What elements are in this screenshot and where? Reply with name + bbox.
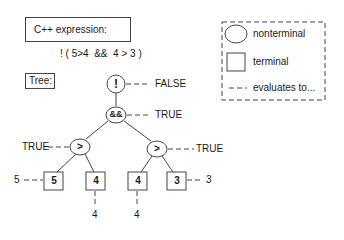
terminal-node: 3 [167,176,187,186]
legend-evaluates-to: evaluates to... [253,83,315,93]
terminal-value: 4 [92,210,98,220]
not-node-value: FALSE [155,79,186,89]
terminal-node: 4 [86,176,106,186]
gt-right-node: > [147,144,167,154]
gt-left-node: > [70,142,90,152]
legend-terminal: terminal [253,57,289,67]
dash-icon [229,86,247,90]
legend-nonterminal: nonterminal [253,29,305,39]
and-node-value: TRUE [155,110,182,120]
terminal-value: 3 [206,175,212,185]
terminal-node: 4 [128,176,148,186]
terminal-node: 5 [44,176,64,186]
terminal-value: 4 [134,210,140,220]
square-icon [227,53,245,71]
gt-right-value: TRUE [196,144,223,154]
terminal-value: 5 [14,175,20,185]
circle-icon [225,25,247,43]
not-node: ! [106,78,126,90]
and-node: && [106,110,126,119]
gt-left-value: TRUE [22,142,49,152]
